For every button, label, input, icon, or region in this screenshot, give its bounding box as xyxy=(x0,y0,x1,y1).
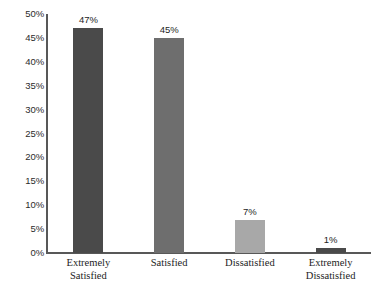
category-label-line: Extremely xyxy=(286,256,376,269)
y-axis-tick-labels: 0%5%10%15%20%25%30%35%40%45%50% xyxy=(0,0,44,297)
bar-value-label: 45% xyxy=(139,24,199,35)
y-axis-tick-label: 5% xyxy=(4,224,44,234)
bar xyxy=(154,38,184,253)
y-axis-tick-label: 45% xyxy=(4,33,44,43)
x-axis-category-label: ExtremelyDissatisfied xyxy=(286,256,376,282)
bar-value-label: 1% xyxy=(301,234,361,245)
y-axis-tick-label: 35% xyxy=(4,81,44,91)
category-label-line: Dissatisfied xyxy=(205,256,295,269)
bar xyxy=(235,220,265,253)
y-axis-tick-label: 50% xyxy=(4,9,44,19)
y-axis-tick-label: 30% xyxy=(4,105,44,115)
x-axis-category-labels: ExtremelySatisfiedSatisfiedDissatisfiedE… xyxy=(48,256,371,297)
y-axis-tick-label: 40% xyxy=(4,57,44,67)
category-label-line: Dissatisfied xyxy=(286,269,376,282)
y-axis-tick-label: 20% xyxy=(4,152,44,162)
bar xyxy=(73,28,103,253)
y-axis-tick-label: 15% xyxy=(4,176,44,186)
x-axis-category-label: Dissatisfied xyxy=(205,256,295,269)
plot-area: 47%45%7%1% xyxy=(48,14,371,253)
bar-value-label: 7% xyxy=(220,206,280,217)
category-label-line: Extremely xyxy=(43,256,133,269)
category-label-line: Satisfied xyxy=(124,256,214,269)
y-axis-tick-label: 10% xyxy=(4,200,44,210)
bar xyxy=(316,248,346,253)
x-axis-category-label: Satisfied xyxy=(124,256,214,269)
y-axis-tick-label: 25% xyxy=(4,129,44,139)
bar-value-label: 47% xyxy=(58,14,118,25)
x-axis-category-label: ExtremelySatisfied xyxy=(43,256,133,282)
bar-chart-figure: 0%5%10%15%20%25%30%35%40%45%50% 47%45%7%… xyxy=(0,0,377,297)
category-label-line: Satisfied xyxy=(43,269,133,282)
y-axis-tick-label: 0% xyxy=(4,248,44,258)
